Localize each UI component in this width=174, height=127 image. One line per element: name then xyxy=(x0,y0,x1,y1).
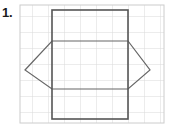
grid-group xyxy=(20,5,164,123)
figure-svg xyxy=(0,0,174,127)
worksheet-figure: 1. xyxy=(0,0,174,127)
grid-background xyxy=(20,5,164,123)
